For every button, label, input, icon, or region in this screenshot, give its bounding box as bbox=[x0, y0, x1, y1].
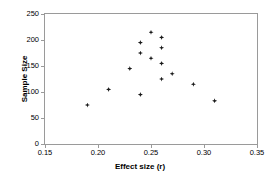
data-point bbox=[149, 56, 154, 61]
data-point bbox=[159, 45, 164, 50]
data-point bbox=[159, 35, 164, 40]
y-axis-tick bbox=[41, 40, 45, 41]
scatter-plot-figure: 0501001502002500.150.200.250.300.35 Samp… bbox=[0, 0, 280, 180]
data-point bbox=[138, 40, 143, 45]
y-axis-tick-label: 50 bbox=[31, 114, 39, 122]
data-point bbox=[85, 103, 90, 108]
y-axis-tick bbox=[41, 92, 45, 93]
data-point bbox=[138, 92, 143, 97]
x-axis-tick-label: 0.25 bbox=[144, 149, 159, 157]
y-axis-tick-label: 250 bbox=[26, 10, 39, 18]
plot-area: 0501001502002500.150.200.250.300.35 bbox=[44, 13, 258, 145]
data-point bbox=[149, 30, 154, 35]
data-point bbox=[159, 77, 164, 82]
y-axis-tick-label: 0 bbox=[35, 140, 39, 148]
x-axis-tick-label: 0.20 bbox=[91, 149, 106, 157]
data-point bbox=[127, 66, 132, 71]
data-point bbox=[191, 82, 196, 87]
data-point bbox=[170, 71, 175, 76]
y-axis-tick-label: 200 bbox=[26, 36, 39, 44]
x-axis-title: Effect size (r) bbox=[0, 163, 280, 171]
data-point bbox=[138, 51, 143, 56]
y-axis-tick bbox=[41, 66, 45, 67]
x-axis-tick-label: 0.15 bbox=[38, 149, 53, 157]
x-axis-tick-label: 0.30 bbox=[197, 149, 212, 157]
data-point bbox=[212, 98, 217, 103]
y-axis-tick bbox=[41, 118, 45, 119]
x-axis-tick-label: 0.35 bbox=[250, 149, 265, 157]
data-point bbox=[106, 87, 111, 92]
data-point bbox=[159, 61, 164, 66]
y-axis-title: Sample Size bbox=[21, 56, 29, 103]
y-axis-tick bbox=[41, 14, 45, 15]
